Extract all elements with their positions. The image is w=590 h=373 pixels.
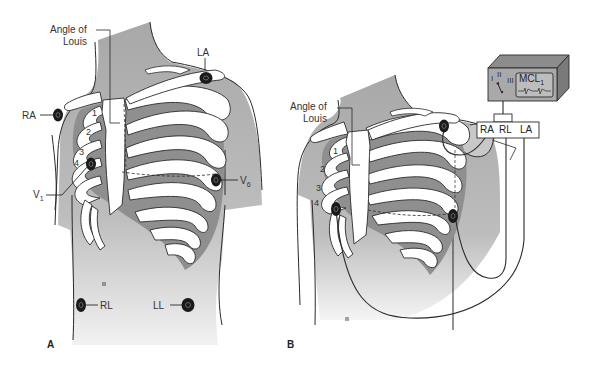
- angle-of-louis-label-b-line2: Louis: [303, 113, 327, 124]
- panel-letter-a: A: [47, 339, 54, 350]
- electrode-v1-b: [331, 202, 341, 216]
- label-la-a: LA: [197, 47, 209, 58]
- lead-box-rl: RL: [499, 124, 512, 135]
- label-ll-a: LL: [153, 300, 164, 311]
- electrode-la-b: [439, 120, 449, 133]
- rib-number-4-a: 4: [74, 158, 79, 169]
- rib-number-1-b: 1: [333, 146, 338, 157]
- label-ra-a: RA: [22, 110, 36, 121]
- rib-number-2-a: 2: [86, 127, 91, 138]
- label-rl-a: RL: [100, 300, 113, 311]
- label-v1-a: V1: [33, 189, 44, 204]
- mcl-sub: 1: [540, 79, 544, 86]
- electrode-la-a: [200, 72, 213, 84]
- switch-lead-i: I: [491, 74, 493, 83]
- electrode-v6-a: [211, 174, 221, 187]
- label-v1-a-sub: 1: [40, 195, 44, 202]
- ecg-diagram: [0, 0, 590, 373]
- electrode-v1-a: [86, 158, 96, 171]
- label-v6-a-text: V: [240, 175, 247, 186]
- angle-of-louis-label-b: Angle of: [290, 101, 327, 112]
- rib-number-1-a: 1: [92, 108, 97, 119]
- label-v6-a: V6: [240, 175, 251, 190]
- electrode-rl-a: [76, 298, 86, 312]
- mcl-text: MCL: [519, 73, 540, 84]
- label-v1-a-text: V: [33, 189, 40, 200]
- lead-box-la: LA: [520, 124, 532, 135]
- electrode-ll-a: [182, 298, 195, 312]
- switch-lead-ii: II: [497, 70, 501, 79]
- monitor-display-label: MCL1: [519, 73, 544, 86]
- electrode-v6-b: [448, 209, 458, 223]
- angle-of-louis-label-a: Angle of: [50, 24, 87, 35]
- rib-number-3-a: 3: [79, 147, 84, 158]
- label-v6-a-sub: 6: [247, 181, 251, 188]
- electrode-ra-a: [53, 109, 63, 122]
- lead-box-ra: RA: [480, 124, 494, 135]
- switch-lead-iii: III: [507, 76, 514, 85]
- rib-number-2-b: 2: [320, 164, 325, 175]
- panel-letter-b: B: [287, 339, 294, 350]
- angle-of-louis-label-a-line2: Louis: [63, 36, 87, 47]
- rib-number-3-b: 3: [316, 183, 321, 194]
- rib-number-4-b: 4: [314, 198, 319, 209]
